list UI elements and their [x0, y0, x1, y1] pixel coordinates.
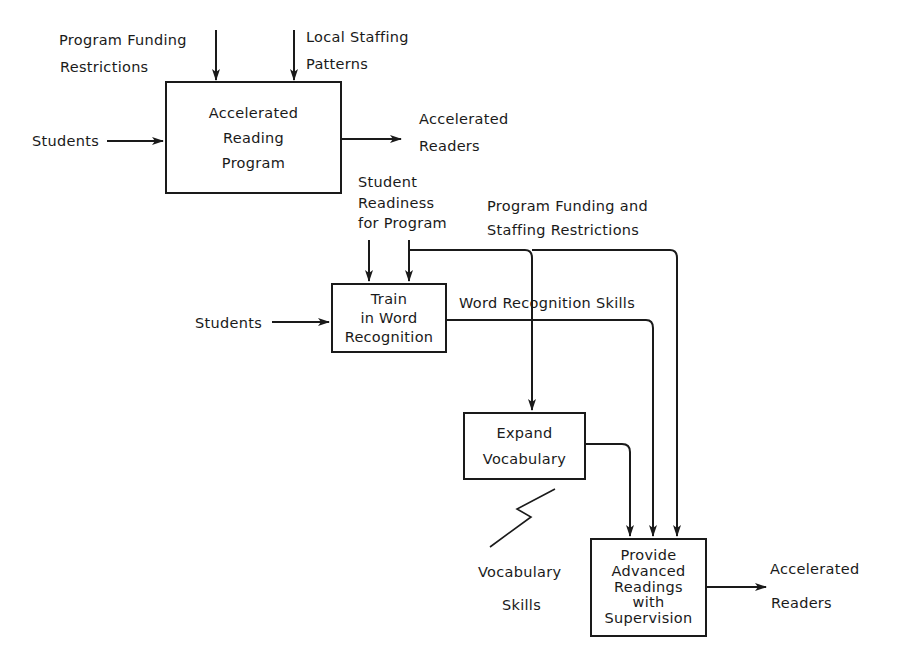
box-line: Reading: [223, 130, 284, 146]
flow-label-skills: Skills: [502, 598, 541, 613]
output-label-accelerated-detail: Accelerated: [770, 562, 859, 577]
box-line: Readings: [614, 580, 683, 596]
control-label-funding-staffing-2: Staffing Restrictions: [487, 223, 639, 238]
control-label-student-readiness-2: Readiness: [358, 196, 434, 211]
control-label-local-staffing-2: Patterns: [306, 57, 368, 72]
output-label-accelerated: Accelerated: [419, 112, 508, 127]
process-box-train-word-recognition: Train in Word Recognition: [331, 283, 447, 353]
process-box-provide-advanced-readings: Provide Advanced Readings with Supervisi…: [590, 538, 707, 637]
process-box-expand-vocabulary: Expand Vocabulary: [463, 412, 586, 480]
control-label-student-readiness: Student: [358, 175, 417, 190]
box-line: Program: [222, 155, 285, 171]
flow-label-word-recognition-skills: Word Recognition Skills: [459, 296, 635, 311]
box-line: Advanced: [611, 564, 685, 580]
box-line: Provide: [621, 548, 677, 564]
process-box-accelerated-reading-program: Accelerated Reading Program: [165, 81, 342, 194]
control-label-local-staffing: Local Staffing: [306, 30, 409, 45]
box-line: Expand: [496, 425, 552, 441]
control-label-student-readiness-3: for Program: [358, 216, 447, 231]
control-label-funding-staffing: Program Funding and: [487, 199, 648, 214]
box-line: Train: [371, 291, 407, 307]
input-label-students: Students: [32, 134, 99, 149]
flow-label-vocabulary: Vocabulary: [478, 565, 561, 580]
box-line: Accelerated: [209, 105, 298, 121]
box-line: Recognition: [345, 329, 434, 345]
box-line: Vocabulary: [483, 451, 566, 467]
box-line: with: [633, 595, 665, 611]
output-label-readers: Readers: [419, 139, 480, 154]
input-label-students-detail: Students: [195, 316, 262, 331]
box-line: Supervision: [604, 611, 692, 627]
control-label-program-funding-2: Restrictions: [60, 60, 148, 75]
box-line: in Word: [360, 310, 417, 326]
control-label-program-funding: Program Funding: [59, 33, 187, 48]
diagram-connectors: [0, 0, 897, 661]
output-label-readers-detail: Readers: [771, 596, 832, 611]
